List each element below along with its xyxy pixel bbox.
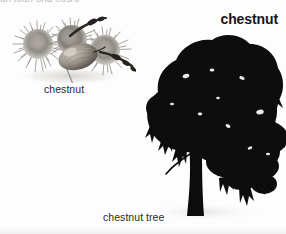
- illustration-page: un toon ond cosro chestnut: [0, 0, 286, 234]
- page-title: chestnut: [220, 11, 278, 27]
- chestnut-burrs-graphic: [8, 16, 136, 84]
- caption-chestnut: chestnut: [44, 83, 84, 95]
- caption-chestnut-tree: chestnut tree: [103, 211, 164, 223]
- chestnut-tree-graphic: [142, 26, 286, 226]
- chestnut-burrs-image: [8, 16, 136, 84]
- bottom-band: [0, 225, 286, 234]
- clipped-top-text: un toon ond cosro: [0, 0, 132, 4]
- chestnut-tree-image: [142, 26, 286, 226]
